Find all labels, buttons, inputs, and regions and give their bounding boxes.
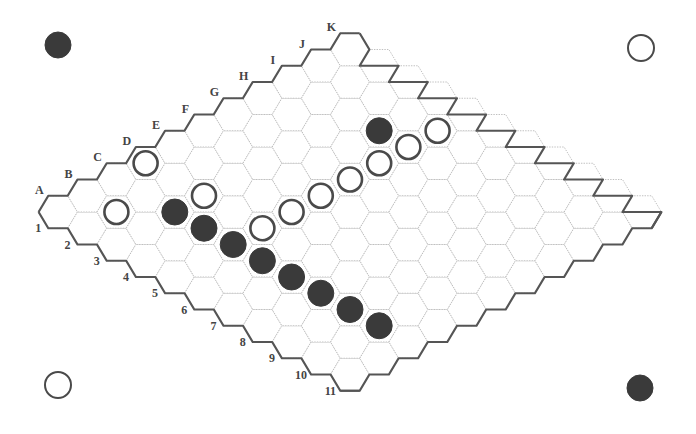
- column-label-A: A: [35, 183, 44, 197]
- white-stone-J5: [426, 119, 450, 143]
- white-stone-F5: [309, 184, 333, 208]
- column-label-K: K: [327, 20, 337, 34]
- black-stone-C10: [366, 313, 392, 339]
- column-label-H: H: [239, 69, 249, 83]
- column-label-I: I: [271, 53, 276, 67]
- black-stone-C9: [337, 297, 363, 323]
- row-label-6: 6: [181, 303, 187, 317]
- row-label-7: 7: [211, 319, 217, 333]
- row-label-4: 4: [123, 270, 129, 284]
- corner-marker-top-left-black: [45, 32, 71, 58]
- white-stone-E5: [280, 200, 304, 224]
- black-stone-C6: [249, 248, 275, 274]
- row-label-1: 1: [35, 221, 41, 235]
- white-stone-H5: [367, 151, 391, 175]
- white-stone-D1: [134, 151, 158, 175]
- column-label-J: J: [299, 37, 305, 51]
- black-stone-C7: [279, 264, 305, 290]
- column-label-D: D: [123, 134, 132, 148]
- row-label-9: 9: [269, 351, 275, 365]
- corner-marker-bottom-right-black: [627, 375, 653, 401]
- hex-board: ABCDEFGHIJK1234567891011: [0, 0, 696, 434]
- black-stone-C5: [220, 232, 246, 258]
- black-stone-C3: [162, 199, 188, 225]
- white-stone-D5: [250, 216, 274, 240]
- white-stone-I5: [396, 135, 420, 159]
- white-stone-D3: [192, 184, 216, 208]
- black-stone-I4: [366, 118, 392, 144]
- row-label-2: 2: [65, 238, 71, 252]
- corner-marker-top-right-white: [628, 35, 654, 61]
- column-label-G: G: [210, 85, 219, 99]
- row-label-3: 3: [94, 254, 100, 268]
- column-label-C: C: [93, 150, 102, 164]
- white-stone-B2: [104, 200, 128, 224]
- white-stone-G5: [338, 168, 362, 192]
- column-label-E: E: [152, 118, 160, 132]
- column-label-B: B: [64, 167, 72, 181]
- column-label-F: F: [182, 102, 189, 116]
- row-label-5: 5: [152, 286, 158, 300]
- black-stone-C8: [308, 280, 334, 306]
- corner-marker-bottom-left-white: [45, 372, 71, 398]
- row-label-10: 10: [295, 368, 307, 382]
- row-label-11: 11: [325, 384, 336, 398]
- black-stone-C4: [191, 215, 217, 241]
- board-cells: [39, 33, 662, 391]
- row-label-8: 8: [240, 335, 246, 349]
